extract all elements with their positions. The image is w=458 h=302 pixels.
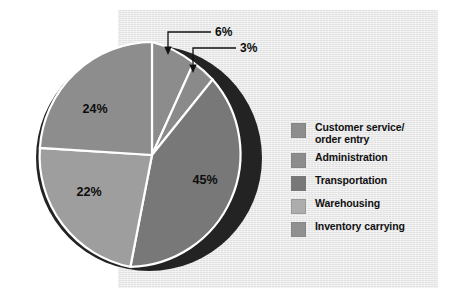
legend-swatch-icon [291, 199, 306, 214]
legend-label-line1: Customer service/ [315, 121, 404, 133]
legend-item-customer-service[interactable]: Customer service/ order entry [291, 122, 441, 145]
legend-swatch-icon [291, 222, 306, 237]
slice-value-customer-service: 24% [82, 102, 107, 116]
legend-label-warehousing: Warehousing [315, 198, 380, 210]
legend-item-transportation[interactable]: Transportation [291, 175, 441, 191]
pie-chart-figure: 45% 22% 24% 6% 3% Customer service/ orde… [0, 0, 458, 302]
legend-label-administration: Administration [315, 152, 388, 164]
slice-value-warehousing: 22% [76, 185, 101, 199]
slice-value-transportation: 45% [192, 173, 217, 187]
callout-value-6: 6% [215, 25, 233, 39]
legend-label-transportation: Transportation [315, 175, 387, 187]
callout-leader-6 [168, 32, 211, 48]
legend-item-administration[interactable]: Administration [291, 152, 441, 168]
legend-label-line2: order entry [315, 134, 404, 146]
legend-swatch-icon [291, 176, 306, 191]
legend-item-inventory-carrying[interactable]: Inventory carrying [291, 221, 441, 237]
legend-swatch-icon [291, 123, 306, 138]
legend-label-customer-service: Customer service/ order entry [315, 122, 404, 145]
pie-slice-customer-service[interactable] [40, 42, 152, 155]
callout-value-3: 3% [240, 41, 258, 55]
chart-legend: Customer service/ order entry Administra… [291, 122, 441, 244]
legend-swatch-icon [291, 153, 306, 168]
legend-item-warehousing[interactable]: Warehousing [291, 198, 441, 214]
legend-label-inventory-carrying: Inventory carrying [315, 221, 405, 233]
